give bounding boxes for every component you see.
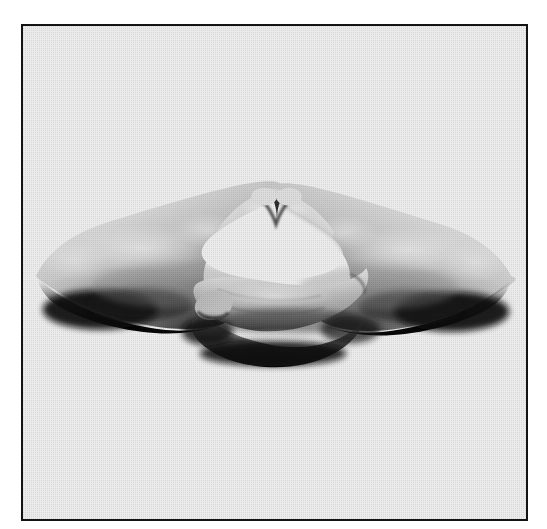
thumb-tip-left: [251, 188, 277, 206]
global-shade-right: [325, 268, 515, 328]
thumb-tip-right: [276, 188, 302, 206]
hands-mudra-illustration: [23, 26, 526, 519]
bottom-edge-core-shadow: [200, 340, 347, 366]
photograph: [23, 26, 526, 519]
photo-frame: [21, 24, 528, 521]
bottom-edge-highlight: [227, 328, 330, 344]
figure-root: Black and white halftone photograph of t…: [0, 0, 547, 529]
global-shade-left: [37, 266, 227, 326]
bottom-edge-left-shadow: [182, 318, 234, 346]
